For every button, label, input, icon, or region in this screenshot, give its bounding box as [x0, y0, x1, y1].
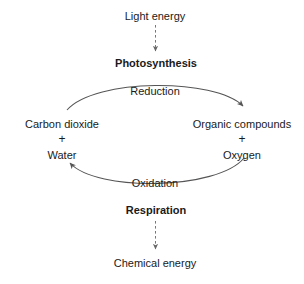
node-respiration: Respiration	[126, 204, 187, 216]
plus-sign-left: +	[58, 133, 65, 145]
photosynthesis-respiration-diagram: Light energy Photosynthesis Reduction Ca…	[0, 0, 304, 284]
node-carbon-dioxide: Carbon dioxide	[25, 118, 99, 130]
node-oxygen: Oxygen	[223, 149, 261, 161]
node-organic-compounds: Organic compounds	[193, 118, 291, 130]
node-photosynthesis: Photosynthesis	[115, 57, 197, 69]
node-light-energy: Light energy	[125, 10, 186, 22]
node-water: Water	[48, 149, 77, 161]
arrow-label-reduction: Reduction	[130, 85, 180, 97]
arrow-label-oxidation: Oxidation	[132, 177, 178, 189]
plus-sign-right: +	[238, 133, 245, 145]
diagram-arrow-layer	[0, 0, 304, 284]
node-chemical-energy: Chemical energy	[114, 257, 197, 269]
